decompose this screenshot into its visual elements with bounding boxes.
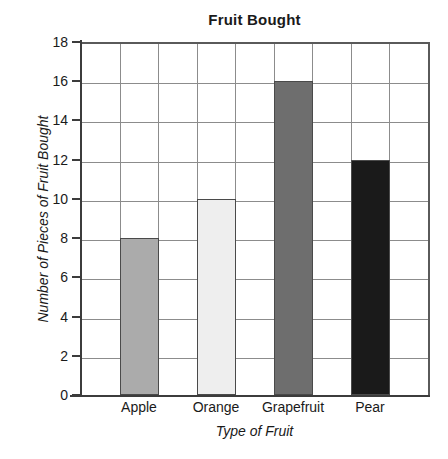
y-axis-tick-label: 18: [28, 35, 68, 49]
x-axis-title: Type of Fruit: [81, 423, 428, 439]
bar-apple: [120, 238, 159, 395]
x-axis-line: [70, 395, 430, 397]
y-axis-tick-mark: [72, 41, 81, 43]
bar-orange: [197, 199, 236, 395]
y-axis-tick-label: 0: [28, 388, 68, 402]
chart-title: Fruit Bought: [81, 11, 428, 29]
x-axis-label-pear: Pear: [310, 398, 430, 416]
y-axis-tick-mark: [72, 198, 81, 200]
y-axis-tick-mark: [72, 237, 81, 239]
y-axis-title: Number of Pieces of Fruit Bought: [35, 69, 51, 369]
y-axis-tick-mark: [72, 119, 81, 121]
y-axis-tick-mark: [72, 316, 81, 318]
gridline-horizontal: [81, 83, 428, 84]
y-axis-tick-mark: [72, 80, 81, 82]
bar-chart: Fruit Bought 181614121086420 AppleOrange…: [0, 0, 448, 459]
y-axis-tick-mark: [72, 394, 81, 396]
y-axis-line: [80, 40, 82, 397]
y-axis-tick-mark: [72, 355, 81, 357]
y-axis-tick-mark: [72, 276, 81, 278]
bar-grapefruit: [274, 81, 313, 395]
gridline-horizontal: [81, 122, 428, 123]
bar-pear: [351, 160, 390, 395]
y-axis-tick-mark: [72, 159, 81, 161]
